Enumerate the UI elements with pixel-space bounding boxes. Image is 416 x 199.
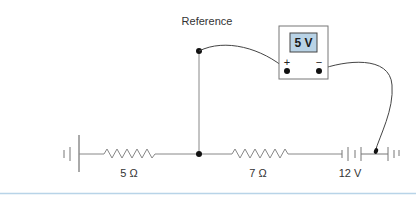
voltmeter: 5 V + − — [279, 26, 328, 79]
resistor-5-label: 5 Ω — [120, 167, 137, 179]
meter-reading: 5 V — [294, 36, 312, 50]
probe-tip — [373, 147, 379, 154]
battery-12v — [342, 147, 399, 161]
resistor-7-label: 7 Ω — [249, 167, 266, 179]
resistor-7-ohm — [232, 149, 288, 158]
circuit-diagram: 5 V + − Reference 5 Ω 7 Ω 12 V — [0, 0, 416, 199]
negative-probe-wire — [319, 62, 392, 152]
battery-label: 12 V — [339, 167, 362, 179]
positive-probe-wire — [199, 45, 287, 70]
main-wire — [79, 149, 342, 158]
left-battery-fragment — [64, 135, 79, 172]
minus-label: − — [316, 56, 322, 68]
plus-label: + — [284, 56, 290, 68]
negative-terminal — [316, 68, 322, 74]
positive-terminal — [284, 68, 290, 74]
junction-node — [196, 151, 202, 157]
reference-label: Reference — [182, 15, 233, 27]
resistor-5-ohm — [104, 149, 155, 158]
